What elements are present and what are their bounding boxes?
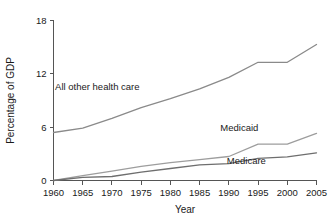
series-label-medicaid: Medicaid [220, 122, 258, 133]
x-tick-label: 1960 [43, 187, 64, 198]
x-tick-label: 1970 [101, 187, 122, 198]
x-tick-label: 1995 [247, 187, 268, 198]
series-label-group: All other health careMedicaidMedicare [55, 81, 266, 166]
x-tick-label: 1985 [189, 187, 210, 198]
y-tick-label: 12 [36, 68, 47, 79]
x-axis: 1960196519701975198019851990199520002005 [43, 181, 327, 198]
chart-canvas: 061218 196019651970197519801985199019952… [0, 0, 332, 220]
x-axis-title: Year [175, 204, 196, 215]
y-tick-label: 6 [41, 122, 46, 133]
y-axis: 061218 [36, 15, 54, 186]
x-tick-label: 2005 [306, 187, 327, 198]
series-group [54, 45, 317, 181]
y-tick-label: 0 [41, 175, 46, 186]
y-axis-title: Percentage of GDP [5, 57, 16, 144]
series-line-medicare [54, 153, 317, 181]
line-chart: 061218 196019651970197519801985199019952… [0, 0, 332, 220]
y-tick-group: 061218 [36, 15, 54, 186]
x-tick-label: 1980 [160, 187, 181, 198]
y-tick-label: 18 [36, 15, 47, 26]
x-tick-label: 2000 [277, 187, 298, 198]
series-label-all-other-health-care: All other health care [55, 81, 140, 92]
x-tick-label: 1975 [131, 187, 152, 198]
x-tick-label: 1990 [218, 187, 239, 198]
x-tick-group: 1960196519701975198019851990199520002005 [43, 181, 327, 198]
series-label-medicare: Medicare [227, 155, 266, 166]
x-tick-label: 1965 [72, 187, 93, 198]
